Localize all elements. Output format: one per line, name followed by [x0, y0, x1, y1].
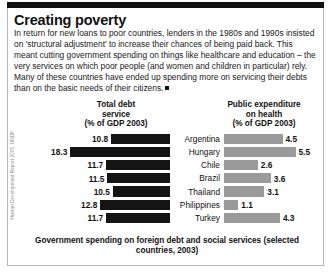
- chart-row: 18.3Hungary5.5: [0, 146, 331, 159]
- country-label: Turkey: [170, 213, 220, 223]
- chart-row: 10.8Argentina4.5: [0, 133, 331, 146]
- chart-header-debt: Total debt service (% of GDP 2003): [62, 100, 170, 129]
- health-bar: [224, 147, 296, 157]
- chart-row: 10.5Thailand3.1: [0, 186, 331, 199]
- health-bar: [224, 173, 271, 183]
- health-bar: [224, 213, 280, 223]
- chart-header-health-line3: (% of GDP 2003): [208, 119, 320, 129]
- country-label: Philippines: [170, 200, 220, 210]
- health-value-label: 2.6: [261, 160, 273, 170]
- debt-bar: [106, 160, 170, 170]
- debt-value-label: 10.8: [92, 134, 108, 144]
- chart-rows: 10.8Argentina4.518.3Hungary5.511.7Chile2…: [0, 133, 331, 225]
- country-label: Brazil: [170, 173, 220, 183]
- chart-header-health-line1: Public expenditure: [208, 100, 320, 110]
- health-value-label: 1.1: [241, 200, 253, 210]
- intro-text: In return for new loans to poor countrie…: [14, 28, 316, 93]
- health-bar: [224, 160, 258, 170]
- health-value-label: 4.3: [283, 213, 295, 223]
- health-value-label: 4.5: [286, 134, 298, 144]
- chart-header-debt-line1: Total debt: [62, 100, 170, 110]
- chart-row: 11.7Chile2.6: [0, 159, 331, 172]
- debt-value-label: 18.3: [51, 147, 67, 157]
- chart-header-health-line2: on health: [208, 110, 320, 120]
- country-label: Hungary: [170, 147, 220, 157]
- debt-bar: [70, 147, 170, 157]
- chart-header-debt-line3: (% of GDP 2003): [62, 119, 170, 129]
- country-label: Argentina: [170, 134, 220, 144]
- health-bar: [224, 134, 283, 144]
- country-label: Thailand: [170, 187, 220, 197]
- debt-value-label: 11.7: [88, 213, 104, 223]
- chart-header-health: Public expenditure on health (% of GDP 2…: [208, 100, 320, 129]
- source-credit: Human Development Report 2005, UNDP: [10, 102, 15, 220]
- chart-row: 11.5Brazil3.6: [0, 173, 331, 186]
- debt-value-label: 10.5: [94, 187, 110, 197]
- chart-caption: Government spending on foreign debt and …: [22, 236, 312, 256]
- infographic-panel: Creating poverty In return for new loans…: [0, 0, 331, 272]
- health-value-label: 3.6: [274, 174, 286, 184]
- page-title: Creating poverty: [14, 12, 126, 28]
- debt-value-label: 11.5: [89, 174, 105, 184]
- health-value-label: 3.1: [267, 187, 279, 197]
- debt-bar: [113, 186, 170, 196]
- debt-bar: [111, 134, 170, 144]
- chart-row: 11.7Turkey4.3: [0, 212, 331, 225]
- debt-bar: [107, 173, 170, 183]
- debt-value-label: 12.8: [81, 200, 97, 210]
- chart-row: 12.8Philippines1.1: [0, 199, 331, 212]
- debt-bar: [106, 213, 170, 223]
- end-of-article-marker: [165, 86, 169, 90]
- debt-value-label: 11.7: [88, 160, 104, 170]
- health-bar: [224, 200, 238, 210]
- health-value-label: 5.5: [299, 147, 311, 157]
- country-label: Chile: [170, 160, 220, 170]
- debt-bar: [100, 200, 170, 210]
- chart-header-debt-line2: service: [62, 110, 170, 120]
- intro-paragraph: In return for new loans to poor countrie…: [14, 28, 316, 95]
- health-bar: [224, 186, 264, 196]
- panel-content: Creating poverty In return for new loans…: [0, 0, 331, 272]
